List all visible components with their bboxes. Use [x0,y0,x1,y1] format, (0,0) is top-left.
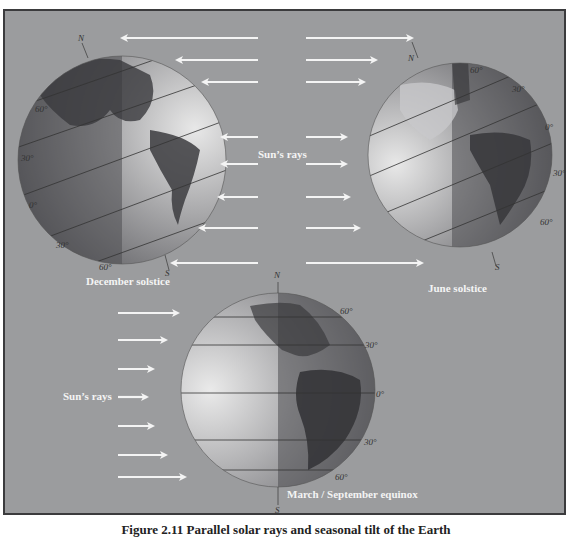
equinox-title: March / September equinox [287,488,418,500]
figure-caption: Figure 2.11 Parallel solar rays and seas… [0,522,572,538]
lat-label-december-30s: 30° [56,240,69,250]
lat-label-june-0: 0° [545,122,553,132]
lat-label-december-60n: 60° [35,104,48,114]
north-label-december: N [78,33,84,43]
lat-label-june-60s: 60° [540,217,553,227]
south-label-equinox: S [275,505,280,515]
sun-rays-label-top: Sun’s rays [258,148,307,160]
lat-label-june-60n: 60° [470,65,483,75]
lat-label-equinox-30n: 30° [365,340,378,350]
north-axis-december [82,43,88,58]
lat-label-december-60s: 60° [99,262,112,272]
north-label-equinox: N [274,270,280,280]
lat-label-december-30n: 30° [21,153,34,163]
globe-icon-december [10,30,240,275]
june-solstice-title: June solstice [428,282,487,294]
south-label-june: S [495,262,500,272]
lat-label-equinox-0: 0° [376,389,384,399]
north-label-june: N [408,53,414,63]
lat-label-june-30s: 30° [553,168,566,178]
december-solstice-title: December solstice [86,275,170,287]
lat-label-equinox-60n: 60° [340,306,353,316]
south-label-december: S [165,268,170,278]
lat-label-equinox-30s: 30° [364,437,377,447]
sun-rays-label-bottom: Sun’s rays [63,390,112,402]
lat-label-december-0: 0° [29,200,37,210]
lat-label-june-30n: 30° [512,84,525,94]
lat-label-equinox-60s: 60° [335,472,348,482]
globe-icon-june [360,42,562,266]
